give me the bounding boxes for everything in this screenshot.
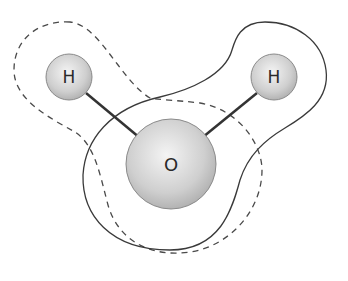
atom-h-right-label: H bbox=[268, 67, 281, 87]
atom-o: O bbox=[126, 119, 216, 209]
atom-h-left: H bbox=[46, 54, 92, 100]
bond-h-right-o bbox=[203, 93, 257, 137]
water-molecule-diagram: H H O bbox=[0, 0, 348, 281]
bond-h-left-o bbox=[86, 93, 140, 138]
atom-o-label: O bbox=[164, 154, 178, 175]
atom-h-left-label: H bbox=[63, 67, 76, 87]
atom-h-right: H bbox=[251, 54, 297, 100]
